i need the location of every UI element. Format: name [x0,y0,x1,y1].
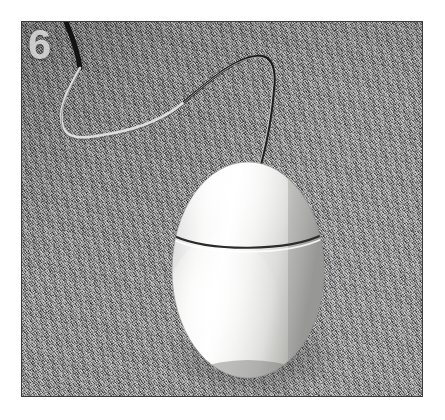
mouse-cable-drop-highlight [259,88,273,168]
mouse-cable-loop [61,68,184,137]
screenshot-root: 6 [0,0,445,420]
mouse-cable-sweep-highlight [183,57,273,103]
mouse-cable-sweep [184,56,274,102]
photo-frame: 6 [21,21,423,397]
mouse-cable-loop-shade [61,70,184,139]
mouse-scene [22,22,422,396]
mouse-cable-dark [66,22,80,68]
